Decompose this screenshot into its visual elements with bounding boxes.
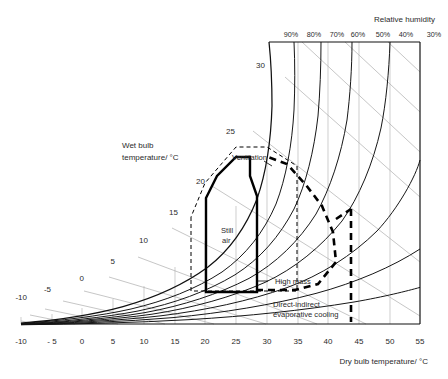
x-tick-label: -10 — [15, 337, 27, 346]
saturation-curve — [21, 42, 272, 323]
x-tick-label: 5 — [111, 337, 116, 346]
zone-high-mass — [256, 157, 336, 290]
zone-label-evap-line2: evaporative cooling — [273, 310, 338, 319]
wet-bulb-tick-label: 30 — [256, 61, 265, 70]
zone-label-ventilation: Ventilation — [232, 153, 267, 162]
wet-bulb-tick-label: 15 — [169, 208, 178, 217]
wet-bulb-axis-title: Wet bulb temperature/ °C — [122, 141, 179, 162]
rh-tick-label: 40% — [399, 30, 414, 39]
x-tick-label: 15 — [171, 337, 180, 346]
wet-bulb-title-line1: Wet bulb — [122, 141, 154, 150]
chart-svg: Ventilation Still air High mass Direct-i… — [0, 0, 448, 379]
wet-bulb-tick-label: -10 — [15, 293, 27, 302]
x-tick-label: 30 — [263, 337, 272, 346]
rh-tick-label: 70% — [330, 30, 345, 39]
wet-bulb-tick-label: -5 — [44, 285, 52, 294]
rh-tick-label: 90% — [284, 30, 299, 39]
zone-still-air — [206, 157, 257, 292]
x-axis-title: Dry bulb temperature/ °C — [339, 357, 428, 366]
x-tick-label: - 5 — [47, 337, 57, 346]
x-tick-label: 40 — [324, 337, 333, 346]
x-tick-label: 10 — [140, 337, 149, 346]
wet-bulb-tick-label: 10 — [139, 236, 148, 245]
x-tick-label: 20 — [201, 337, 210, 346]
relative-humidity-tick-labels: 90% 80% 70% 60% 50% 40% 30% — [284, 30, 442, 39]
x-tick-label: 55 — [416, 337, 425, 346]
x-tick-label: 45 — [355, 337, 364, 346]
wet-bulb-tick-label: 0 — [80, 274, 85, 283]
relative-humidity-title: Relative humidity — [374, 15, 435, 24]
x-tick-label: 35 — [294, 337, 303, 346]
x-tick-label: 25 — [232, 337, 241, 346]
zone-label-evap-line1: Direct-indirect — [273, 300, 321, 309]
leader-ventilation — [264, 161, 272, 166]
wet-bulb-title-line2: temperature/ °C — [122, 153, 179, 162]
x-axis-tick-labels: -10 - 5 0 5 10 15 20 25 30 35 40 45 50 5… — [15, 337, 425, 346]
rh-tick-label: 60% — [351, 30, 366, 39]
zone-label-still-air-line1: Still — [221, 226, 234, 235]
zone-label-still-air-line2: air — [222, 236, 231, 245]
rh-tick-label: 50% — [376, 30, 391, 39]
rh-tick-label: 80% — [307, 30, 322, 39]
zone-labels: Ventilation Still air High mass Direct-i… — [221, 153, 338, 319]
wet-bulb-tick-label: 20 — [196, 177, 205, 186]
psychrometric-chart-figure: Ventilation Still air High mass Direct-i… — [0, 0, 448, 379]
x-tick-label: 50 — [386, 337, 395, 346]
wet-bulb-tick-label: 5 — [111, 257, 116, 266]
rh-tick-label: 30% — [427, 30, 442, 39]
zone-label-high-mass: High mass — [275, 277, 311, 286]
x-tick-label: 0 — [80, 337, 85, 346]
wet-bulb-tick-label: 25 — [226, 127, 235, 136]
wet-bulb-tick-labels: -10 -5 0 5 10 15 20 25 30 — [15, 61, 265, 302]
